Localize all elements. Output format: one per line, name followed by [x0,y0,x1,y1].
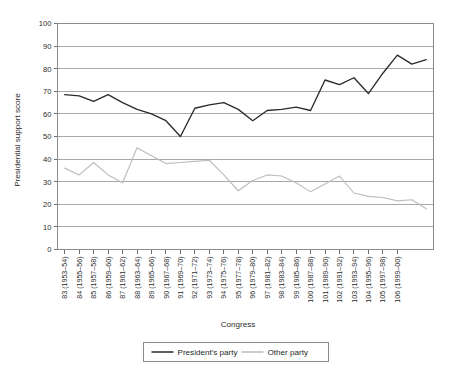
x-tick-label: 91 (1969–70) [177,257,185,299]
chart-legend: President's partyOther party [144,343,329,362]
x-tick-label: 86 (1959–60) [105,257,113,299]
x-tick-label: 104 (1995–96) [365,257,373,303]
series-line-presidents-party [65,55,427,136]
presidential-support-line-chart: 0102030405060708090100 83 (1953–54)84 (1… [0,0,459,372]
y-tick-label: 100 [39,19,52,28]
y-tick-label: 90 [43,42,51,51]
x-tick-label: 83 (1953–54) [61,257,69,299]
x-tick-label: 106 (1999–00) [394,257,402,303]
y-tick-label: 80 [43,65,51,74]
chart-container: 0102030405060708090100 83 (1953–54)84 (1… [0,0,459,372]
y-axis-ticks-group: 0102030405060708090100 [39,19,58,254]
legend-label-other-party: Other party [268,348,309,357]
x-tick-label: 94 (1975–76) [220,257,228,299]
x-tick-label: 100 (1987–88) [307,257,315,303]
legend-label-presidents-party: President's party [178,348,239,357]
x-tick-label: 85 (1957–58) [90,257,98,299]
x-tick-label: 84 (1955–56) [76,257,84,299]
y-tick-label: 60 [43,110,51,119]
x-tick-label: 99 (1985–86) [293,257,301,299]
x-tick-label: 101 (1989–90) [322,257,330,303]
x-tick-label: 97 (1981–82) [264,257,272,299]
x-tick-label: 93 (1973–74) [206,257,214,299]
x-tick-label: 92 (1971–72) [191,257,199,299]
x-tick-label: 105 (1997–98) [379,257,387,303]
x-axis-ticks-group: 83 (1953–54)84 (1955–56)85 (1957–58)86 (… [61,250,402,303]
x-tick-label: 89 (1965–66) [148,257,156,299]
x-tick-label: 95 (1977–78) [235,257,243,299]
data-series-group [65,55,427,209]
x-tick-label: 96 (1979–80) [249,257,257,299]
y-axis-title: Presidential support score [13,93,22,187]
y-tick-label: 10 [43,223,51,232]
x-axis-title: Congress [221,320,256,329]
y-tick-label: 50 [43,132,51,141]
y-tick-label: 20 [43,200,51,209]
x-tick-label: 87 (1961–62) [119,257,127,299]
series-line-other-party [65,148,427,209]
x-tick-label: 103 (1993–94) [351,257,359,303]
y-tick-label: 0 [47,245,51,254]
x-tick-label: 102 (1991–92) [336,257,344,303]
y-tick-label: 70 [43,87,51,96]
x-tick-label: 90 (1967–68) [163,257,171,299]
y-tick-label: 30 [43,178,51,187]
x-tick-label: 98 (1983–84) [278,257,286,299]
gridlines-group [58,24,434,250]
y-tick-label: 40 [43,155,51,164]
x-tick-label: 88 (1963–64) [134,257,142,299]
